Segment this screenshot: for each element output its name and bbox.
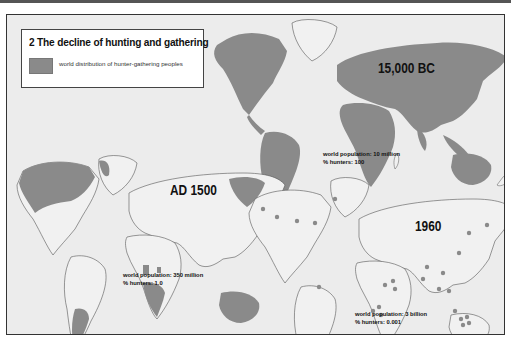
hunters-15000bc: % hunters: 100 — [323, 159, 400, 167]
legend-box: 2 The decline of hunting and gathering w… — [21, 29, 204, 88]
figure-panel: 2 The decline of hunting and gathering w… — [6, 14, 505, 335]
hunters-1960: % hunters: 0.001 — [355, 319, 427, 327]
hunters-ad1500: % hunters: 1.0 — [123, 280, 203, 288]
population-15000bc: world population: 10 million — [323, 151, 400, 159]
map-ad1500 — [17, 156, 285, 335]
stats-15000bc: world population: 10 million % hunters: … — [323, 151, 400, 166]
legend-swatch — [29, 58, 53, 74]
population-1960: world population: 3 billion — [355, 311, 427, 319]
population-ad1500: world population: 350 million — [123, 272, 203, 280]
stats-ad1500: world population: 350 million % hunters:… — [123, 272, 203, 287]
era-label-ad1500: AD 1500 — [170, 182, 217, 198]
era-label-15000bc: 15,000 BC — [378, 60, 435, 76]
legend-label: world distribution of hunter-gathering p… — [59, 60, 183, 67]
era-label-1960: 1960 — [415, 218, 441, 234]
top-rule — [0, 0, 511, 3]
figure-title: 2 The decline of hunting and gathering — [29, 36, 208, 48]
stats-1960: world population: 3 billion % hunters: 0… — [355, 311, 427, 326]
